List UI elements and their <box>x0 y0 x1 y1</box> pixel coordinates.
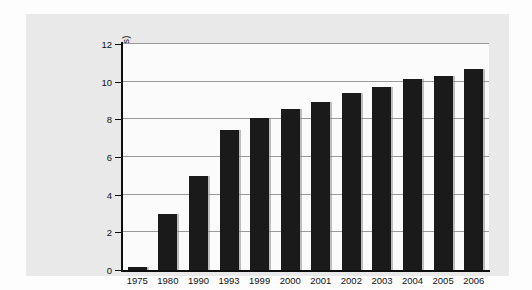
plot-frame: Employees (in millions) 024681012 197519… <box>84 30 489 270</box>
x-tick-label: 2006 <box>458 275 489 286</box>
chart-panel: Employees (in millions) 024681012 197519… <box>26 14 509 276</box>
bar-slot <box>250 44 269 270</box>
bar[interactable] <box>158 214 177 271</box>
bar-slot <box>403 44 422 270</box>
bar-slot <box>372 44 391 270</box>
x-tick-label: 1990 <box>183 275 214 286</box>
y-tick-label: 6 <box>84 152 112 163</box>
y-tick-label: 0 <box>84 265 112 276</box>
bar[interactable] <box>250 118 269 270</box>
bar-slot <box>189 44 208 270</box>
chart-figure: Employees (in millions) 024681012 197519… <box>0 0 532 290</box>
y-axis-line <box>121 42 123 272</box>
x-tick-label: 2002 <box>336 275 367 286</box>
y-tick-label: 12 <box>84 39 112 50</box>
bar[interactable] <box>220 130 239 270</box>
x-tick-label: 2004 <box>397 275 428 286</box>
y-tick-label: 2 <box>84 227 112 238</box>
bar[interactable] <box>342 93 361 270</box>
bar-slot <box>128 44 147 270</box>
x-tick-label: 2003 <box>367 275 398 286</box>
x-axis-line <box>121 270 490 272</box>
bar[interactable] <box>434 76 453 270</box>
x-tick-label: 1975 <box>122 275 153 286</box>
bar[interactable] <box>281 109 300 270</box>
x-tick-label: 2005 <box>428 275 459 286</box>
y-tick-label: 4 <box>84 189 112 200</box>
y-tick-label: 8 <box>84 114 112 125</box>
bar[interactable] <box>189 176 208 270</box>
bar-slot <box>311 44 330 270</box>
x-tick-label: 2000 <box>275 275 306 286</box>
y-tick-label: 10 <box>84 76 112 87</box>
x-tick-label: 1999 <box>244 275 275 286</box>
plot-area <box>122 44 489 270</box>
bar-slot <box>220 44 239 270</box>
bar-slot <box>464 44 483 270</box>
bar-slot <box>342 44 361 270</box>
bar[interactable] <box>311 102 330 270</box>
x-tick-label: 1993 <box>214 275 245 286</box>
bar[interactable] <box>372 87 391 270</box>
bar-slot <box>434 44 453 270</box>
bar[interactable] <box>464 69 483 270</box>
x-tick-label: 1980 <box>153 275 184 286</box>
x-tick-label: 2001 <box>306 275 337 286</box>
bar-slot <box>281 44 300 270</box>
bar-slot <box>158 44 177 270</box>
bar[interactable] <box>403 79 422 270</box>
